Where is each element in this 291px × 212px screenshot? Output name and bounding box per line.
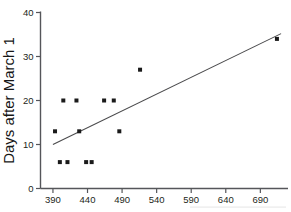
data-point-marker[interactable] (53, 129, 57, 133)
scatter-chart: 010203040390440490540590640690Days after… (0, 0, 291, 212)
data-point-marker[interactable] (138, 68, 142, 72)
y-tick-label: 0 (28, 183, 33, 194)
x-tick-label: 640 (218, 194, 234, 205)
y-tick-label: 10 (23, 139, 34, 150)
x-tick-label: 690 (252, 194, 268, 205)
data-point-marker[interactable] (84, 160, 88, 164)
x-tick-label: 540 (149, 194, 165, 205)
x-tick-label: 490 (114, 194, 130, 205)
data-point-marker[interactable] (275, 37, 279, 41)
y-tick-label: 40 (23, 7, 34, 18)
data-point-marker[interactable] (77, 129, 81, 133)
x-tick-label: 590 (183, 194, 199, 205)
data-point-marker[interactable] (58, 160, 62, 164)
data-point-marker[interactable] (112, 99, 116, 103)
y-tick-label: 30 (23, 51, 34, 62)
data-point-marker[interactable] (65, 160, 69, 164)
data-point-marker[interactable] (61, 99, 65, 103)
data-point-marker[interactable] (90, 160, 94, 164)
x-tick-label: 440 (80, 194, 96, 205)
y-axis-title: Days after March 1 (0, 37, 17, 164)
x-tick-label: 390 (45, 194, 61, 205)
data-point-marker[interactable] (74, 99, 78, 103)
chart-canvas: 010203040390440490540590640690Days after… (0, 0, 291, 212)
data-point-marker[interactable] (117, 129, 121, 133)
data-point-marker[interactable] (102, 99, 106, 103)
trend-line (53, 34, 281, 145)
scan-edge-artifact (190, 207, 286, 208)
y-tick-label: 20 (23, 95, 34, 106)
